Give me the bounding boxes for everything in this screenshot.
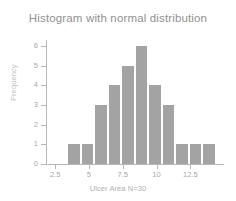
y-axis-tick-mark <box>41 46 46 47</box>
y-axis-tick-label: 6 <box>26 42 38 50</box>
x-axis-tick-mark <box>190 165 191 169</box>
y-axis-title: Frequency <box>9 48 18 118</box>
histogram-bar <box>135 46 149 164</box>
histogram-bar <box>202 144 216 164</box>
plot-area <box>47 40 216 164</box>
y-axis-tick-label: 4 <box>26 82 38 90</box>
y-axis-tick-label: 2 <box>26 121 38 129</box>
histogram-bar <box>121 66 135 164</box>
x-axis-tick-label: 5 <box>77 171 101 179</box>
x-axis-title: Ulcer Area N=30 <box>0 184 236 193</box>
x-axis-tick-mark <box>89 165 90 169</box>
y-axis-tick-mark <box>41 85 46 86</box>
y-axis-tick-mark <box>41 125 46 126</box>
x-axis-tick-label: 2.5 <box>43 171 67 179</box>
y-axis-tick-mark <box>41 105 46 106</box>
histogram-bar <box>148 85 162 164</box>
y-axis-tick-mark <box>41 66 46 67</box>
y-axis-tick-label: 5 <box>26 62 38 70</box>
x-axis-tick-label: 10 <box>145 171 169 179</box>
chart-title: Histogram with normal distribution <box>0 12 236 24</box>
histogram-bar <box>108 85 122 164</box>
histogram-bar <box>189 144 203 164</box>
x-axis-tick-label: 7.5 <box>111 171 135 179</box>
y-axis-tick-label: 3 <box>26 101 38 109</box>
x-axis-line <box>46 164 224 165</box>
histogram-bar <box>162 105 176 164</box>
x-axis-tick-mark <box>55 165 56 169</box>
x-axis-tick-mark <box>157 165 158 169</box>
y-axis-tick-label: 1 <box>26 141 38 149</box>
histogram-bar <box>67 144 81 164</box>
x-axis-tick-mark <box>123 165 124 169</box>
y-axis-tick-mark <box>41 164 46 165</box>
y-axis-tick-label: 0 <box>26 160 38 168</box>
x-axis-tick-label: 12.5 <box>178 171 202 179</box>
histogram-bar <box>81 144 95 164</box>
histogram-chart: Histogram with normal distribution 01234… <box>0 0 236 201</box>
y-axis-tick-mark <box>41 144 46 145</box>
histogram-bar <box>175 144 189 164</box>
histogram-bar <box>94 105 108 164</box>
